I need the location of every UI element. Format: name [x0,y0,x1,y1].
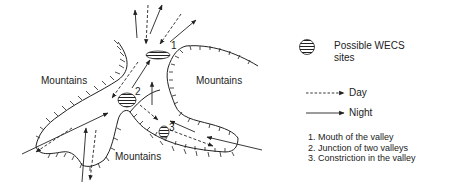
site-3-number: 3 [169,122,175,133]
legend-notes: 1. Mouth of the valley 2. Junction of tw… [308,132,416,164]
valley-outline [36,42,258,166]
site-1-marker [146,51,170,59]
wecs-sites [118,51,170,138]
note-1: 1. Mouth of the valley [308,132,416,143]
legend-site-label-line2: sites [334,52,405,64]
note-3: 3. Constriction in the valley [308,153,416,164]
site-legend-icon [300,40,315,55]
legend-day-label: Day [349,87,367,99]
site-2-number: 2 [135,86,141,97]
legend-site-label: Possible WECS sites [334,40,405,64]
legend-night-label: Night [349,107,372,119]
note-2: 2. Junction of two valleys [308,143,416,154]
site-1-number: 1 [171,40,177,51]
mountains-label-bottom: Mountains [115,151,161,162]
mountains-label-right: Mountains [196,75,242,86]
legend-site-label-line1: Possible WECS [334,40,405,52]
mountains-label-left: Mountains [41,75,87,86]
site-3-marker [159,126,169,138]
site-2-marker [118,93,136,107]
